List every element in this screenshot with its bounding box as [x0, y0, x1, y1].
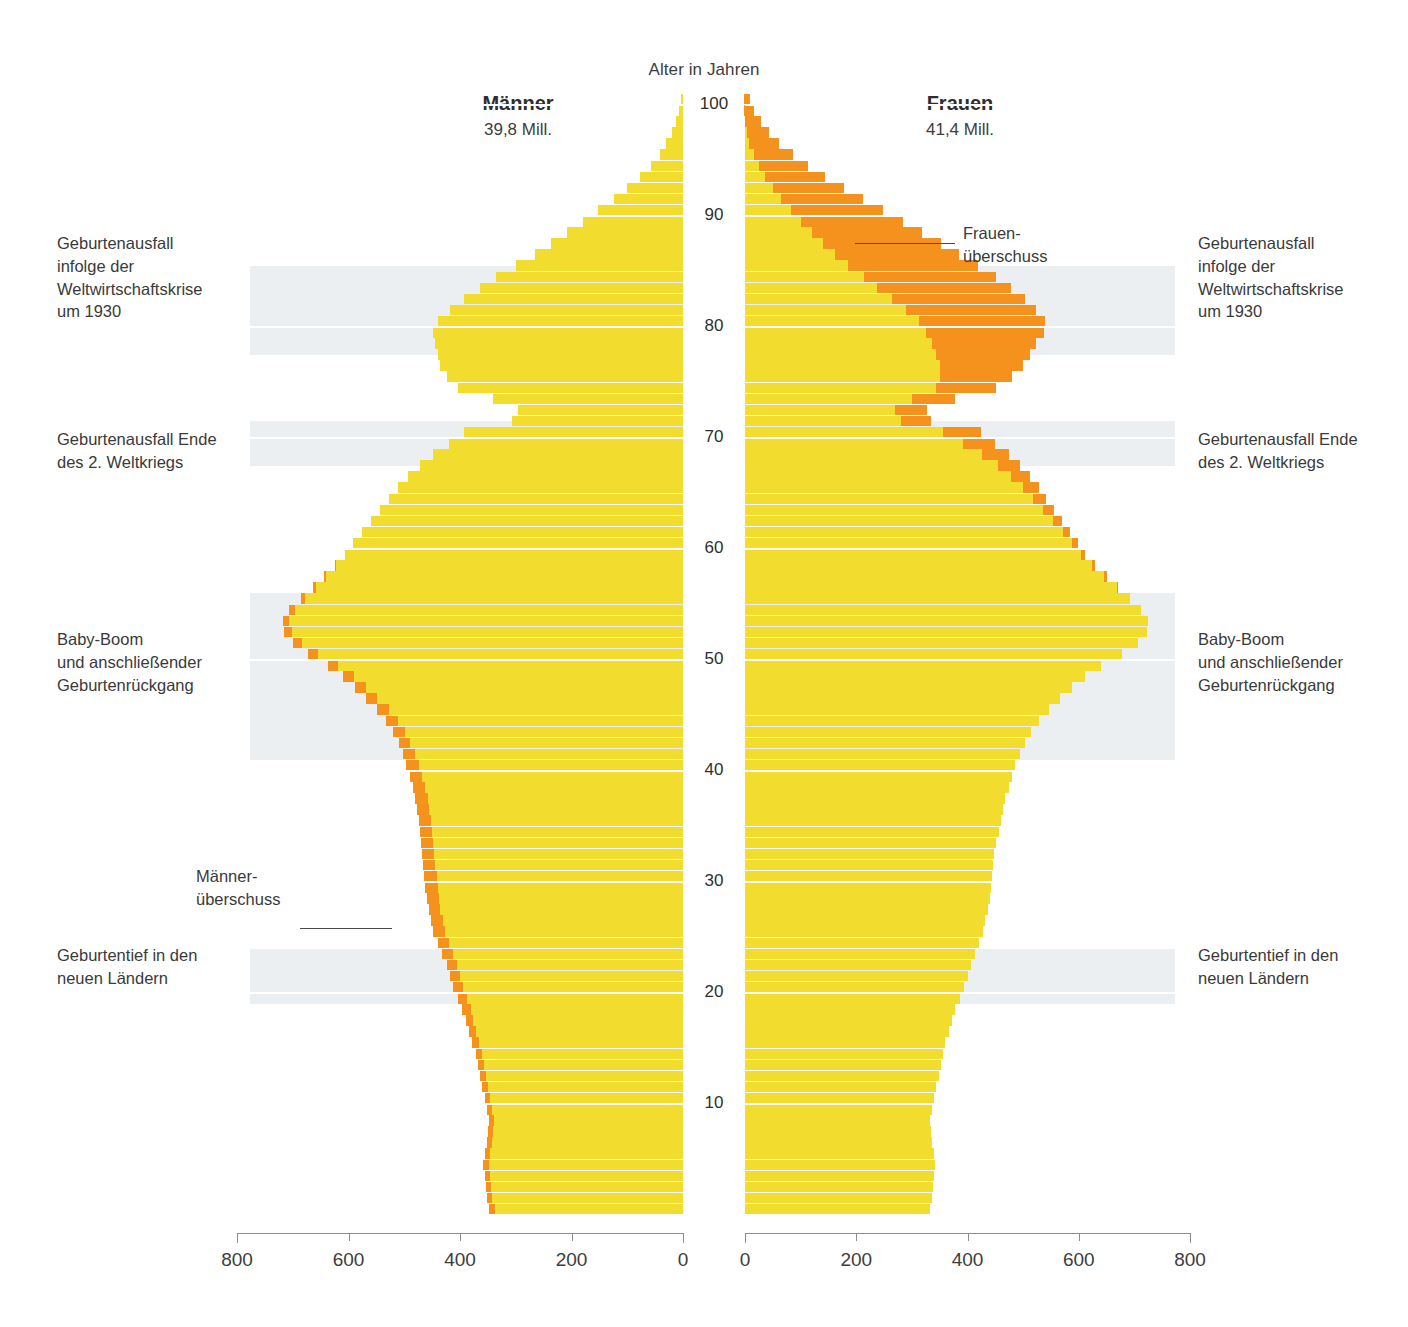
bar-male-age-31 — [423, 860, 683, 871]
bar-male-surplus — [399, 738, 411, 749]
bar-female-base — [745, 482, 1039, 493]
bar-female-age-52 — [745, 627, 1147, 638]
x-label-female-200: 200 — [816, 1249, 896, 1271]
bar-female-surplus — [1033, 494, 1046, 505]
bar-male-base — [362, 527, 683, 538]
bar-male-surplus — [476, 1049, 482, 1060]
bar-male-base — [324, 571, 683, 582]
annotation-left-depression: Geburtenausfall infolge der Weltwirtscha… — [57, 232, 287, 323]
x-label-female-800: 800 — [1150, 1249, 1230, 1271]
bar-male-surplus — [355, 682, 366, 693]
bar-female-age-82 — [745, 294, 1025, 305]
gridline-female-20 — [745, 992, 1190, 994]
bar-male-age-0 — [489, 1204, 683, 1215]
x-tick-female-400 — [968, 1233, 969, 1241]
bar-male-age-49 — [328, 660, 683, 671]
annotation-line: Geburtenrückgang — [1198, 674, 1408, 697]
bar-female-age-31 — [745, 860, 993, 871]
annotation-line: des 2. Weltkriegs — [57, 451, 287, 474]
bar-male-age-99 — [679, 105, 683, 116]
bar-female-age-56 — [745, 582, 1118, 593]
bar-male-surplus — [469, 1026, 476, 1037]
bar-female-surplus — [781, 194, 863, 205]
x-label-female-0: 0 — [705, 1249, 785, 1271]
x-tick-male-200 — [572, 1233, 573, 1241]
bar-male-age-88 — [567, 227, 683, 238]
bar-male-base — [450, 305, 683, 316]
bar-male-base — [485, 1093, 683, 1104]
bar-male-surplus — [289, 605, 295, 616]
bar-female-surplus — [848, 260, 977, 271]
bar-male-age-92 — [627, 183, 683, 194]
bar-female-base — [745, 993, 960, 1004]
bar-male-age-30 — [424, 871, 683, 882]
bar-female-base — [745, 660, 1101, 671]
bar-female-base — [745, 938, 979, 949]
bar-male-age-15 — [472, 1037, 683, 1048]
bar-male-base — [420, 827, 683, 838]
bar-male-base — [301, 593, 683, 604]
bar-female-base — [745, 593, 1130, 604]
bar-female-base — [745, 893, 990, 904]
bar-female-surplus — [1011, 471, 1030, 482]
bar-male-surplus — [419, 815, 431, 826]
bar-female-age-86 — [745, 249, 959, 260]
bar-male-base — [567, 227, 683, 238]
bar-female-base — [745, 494, 1046, 505]
bar-female-surplus — [835, 249, 958, 260]
bar-male-age-84 — [496, 272, 683, 283]
annotation-line: Geburtenrückgang — [57, 674, 287, 697]
bar-male-base — [485, 1148, 683, 1159]
bar-male-age-53 — [283, 616, 683, 627]
bar-male-base — [429, 904, 683, 915]
annotation-line: Geburtentief in den — [57, 944, 287, 967]
bar-female-base — [745, 438, 995, 449]
bar-female-surplus — [943, 427, 981, 438]
bar-female-base — [745, 1093, 934, 1104]
bar-male-age-90 — [598, 205, 683, 216]
bar-female-surplus — [901, 416, 931, 427]
bar-female-age-33 — [745, 838, 996, 849]
bar-male-age-1 — [487, 1193, 683, 1204]
bar-male-surplus — [420, 827, 432, 838]
bar-male-age-5 — [485, 1148, 683, 1159]
annotation-line: infolge der — [57, 255, 287, 278]
bar-female-age-75 — [745, 371, 1012, 382]
bar-male-base — [399, 738, 683, 749]
bar-female-age-18 — [745, 1004, 955, 1015]
bar-male-base — [433, 327, 683, 338]
bar-male-base — [551, 238, 683, 249]
bar-male-age-41 — [403, 749, 683, 760]
bar-female-base — [745, 960, 971, 971]
annotation-line: überschuss — [963, 245, 1163, 268]
bar-male-surplus — [487, 1193, 493, 1204]
bar-female-age-48 — [745, 671, 1085, 682]
bar-female-surplus — [877, 283, 1011, 294]
bar-male-surplus — [442, 949, 453, 960]
bar-male-base — [419, 815, 683, 826]
bar-female-age-1 — [745, 1193, 932, 1204]
gridline-female-80 — [745, 326, 1190, 328]
bar-female-age-97 — [745, 127, 769, 138]
bar-male-age-72 — [518, 405, 683, 416]
annotation-right-ww2: Geburtenausfall Ende des 2. Weltkriegs — [1198, 428, 1408, 474]
annotation-line: überschuss — [196, 888, 326, 911]
bar-male-age-40 — [406, 760, 683, 771]
bar-male-age-89 — [583, 216, 683, 227]
bar-female-base — [745, 949, 975, 960]
bar-male-age-43 — [393, 727, 683, 738]
bar-male-base — [462, 1004, 683, 1015]
bar-male-age-25 — [433, 926, 683, 937]
bar-male-surplus — [433, 926, 445, 937]
bar-male-age-6 — [487, 1137, 683, 1148]
bar-male-surplus — [283, 616, 290, 627]
bar-male-age-60 — [353, 538, 683, 549]
x-label-male-800: 800 — [197, 1249, 277, 1271]
bar-female-surplus — [936, 383, 996, 394]
bar-female-age-62 — [745, 516, 1062, 527]
bar-female-surplus — [1072, 538, 1078, 549]
bar-female-surplus — [1063, 527, 1070, 538]
annotation-line: um 1930 — [1198, 300, 1408, 323]
bar-male-base — [283, 616, 683, 627]
bar-male-base — [433, 449, 683, 460]
